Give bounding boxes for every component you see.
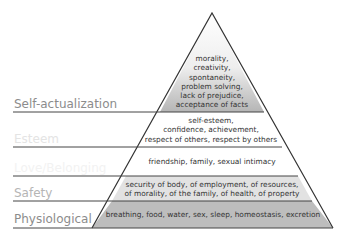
- label-love: Love/Belonging: [14, 161, 106, 175]
- label-physiological: Physiological: [14, 212, 92, 226]
- text-physiological: breathing, food, water, sex, sleep, home…: [106, 210, 320, 219]
- text-safety: security of body, of employment, of reso…: [125, 180, 300, 199]
- text-self-actualization: morality, creativity, spontaneity, probl…: [176, 54, 248, 110]
- text-love: friendship, family, sexual intimacy: [148, 157, 275, 166]
- label-self-actualization: Self-actualization: [14, 97, 117, 111]
- text-esteem: self-esteem, confidence, achievement, re…: [145, 116, 277, 144]
- label-esteem: Esteem: [14, 132, 59, 146]
- label-safety: Safety: [14, 186, 52, 200]
